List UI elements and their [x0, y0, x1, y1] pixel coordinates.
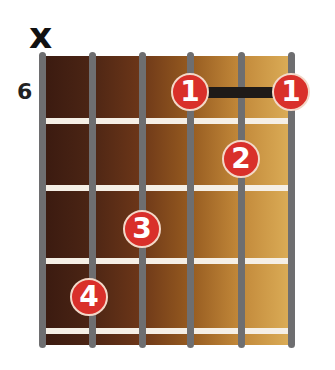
finger-dot: 2 [222, 140, 260, 178]
finger-dot: 1 [171, 73, 209, 111]
start-fret-label: 6 [17, 79, 32, 104]
finger-dot: 1 [272, 73, 310, 111]
barre-bar [205, 87, 280, 98]
fret-line [42, 118, 292, 124]
muted-string-marker: x [29, 18, 52, 54]
fret-line [42, 185, 292, 191]
finger-dot: 4 [70, 278, 108, 316]
string-3 [139, 52, 146, 348]
finger-dot: 3 [123, 210, 161, 248]
string-1 [39, 52, 46, 348]
fret-line [42, 328, 292, 334]
chord-diagram: x 6 1 1 2 3 4 [0, 0, 335, 370]
fret-line [42, 258, 292, 264]
